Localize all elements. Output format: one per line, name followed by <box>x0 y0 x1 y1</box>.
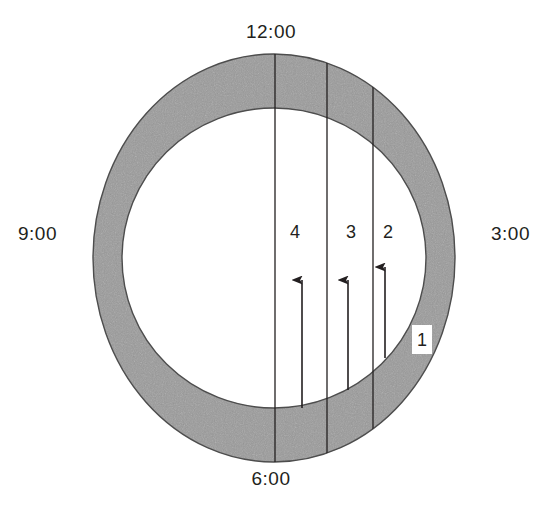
clock-label-9-oclock: 9:00 <box>18 223 57 245</box>
sector-label-2: 2 <box>376 222 400 243</box>
sector-label-4: 4 <box>283 222 307 243</box>
grey-annulus-ring <box>0 0 542 519</box>
sector-label-1-box: 1 <box>412 325 432 354</box>
clock-label-12-oclock: 12:00 <box>0 21 542 43</box>
sector-label-3: 3 <box>339 222 363 243</box>
sector-label-1: 1 <box>417 331 427 349</box>
clock-label-3-oclock: 3:00 <box>491 223 530 245</box>
clock-ring-diagram <box>0 0 542 519</box>
figure-canvas: 12:00 3:00 6:00 9:00 4 3 2 1 <box>0 0 542 519</box>
clock-label-6-oclock: 6:00 <box>0 468 542 490</box>
